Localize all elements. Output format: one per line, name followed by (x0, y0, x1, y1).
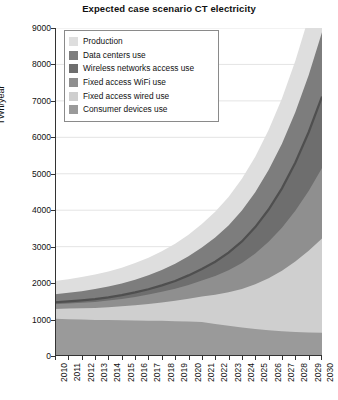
legend-item[interactable]: Fixed access wired use (69, 89, 213, 103)
legend-item[interactable]: Fixed access WiFi use (69, 76, 213, 90)
x-tick-mark (321, 356, 322, 360)
x-tick-label: 2013 (99, 363, 109, 382)
chart-title: Expected case scenario CT electricity (0, 3, 338, 14)
x-tick-label: 2019 (179, 363, 189, 382)
legend-item[interactable]: Wireless networks access use (69, 62, 213, 76)
x-tick-mark (309, 356, 310, 360)
legend-swatch-icon (69, 64, 78, 73)
x-tick-mark (82, 356, 83, 360)
legend: ProductionData centers useWireless netwo… (64, 30, 219, 122)
y-tick-label: 0 (17, 351, 51, 361)
y-axis-ticks: 0100020003000400050006000700080009000 (13, 28, 51, 356)
x-tick-label: 2025 (259, 363, 269, 382)
x-tick-mark (108, 356, 109, 360)
x-tick-label: 2026 (273, 363, 283, 382)
x-tick-mark (55, 356, 56, 360)
legend-swatch-icon (69, 78, 78, 87)
x-tick-label: 2030 (325, 363, 335, 382)
chart-container: Expected case scenario CT electricity TW… (0, 0, 338, 400)
x-tick-label: 2016 (139, 363, 149, 382)
y-tick-label: 5000 (17, 169, 51, 179)
x-tick-label: 2017 (152, 363, 162, 382)
y-tick-label: 3000 (17, 242, 51, 252)
x-tick-label: 2011 (72, 363, 82, 381)
x-tick-label: 2012 (86, 363, 96, 382)
x-tick-label: 2014 (112, 363, 122, 382)
legend-swatch-icon (69, 92, 78, 101)
x-tick-label: 2029 (313, 363, 323, 382)
legend-swatch-icon (69, 51, 78, 60)
x-tick-mark (175, 356, 176, 360)
x-tick-label: 2010 (59, 363, 69, 382)
x-tick-mark (295, 356, 296, 360)
y-tick-label: 2000 (17, 278, 51, 288)
legend-item[interactable]: Data centers use (69, 49, 213, 63)
x-tick-label: 2023 (233, 363, 243, 382)
legend-label: Fixed access WiFi use (83, 78, 166, 87)
x-tick-label: 2028 (299, 363, 309, 382)
x-tick-label: 2027 (286, 363, 296, 382)
y-tick-label: 1000 (17, 315, 51, 325)
x-tick-label: 2022 (219, 363, 229, 382)
legend-swatch-icon (69, 105, 78, 114)
legend-label: Wireless networks access use (83, 64, 194, 73)
legend-label: Production (83, 37, 123, 46)
x-tick-label: 2018 (166, 363, 176, 382)
x-tick-mark (68, 356, 69, 360)
x-tick-mark (189, 356, 190, 360)
x-tick-mark (95, 356, 96, 360)
x-tick-mark (162, 356, 163, 360)
x-axis-ticks: 2010201120122013201420152016201720182019… (55, 356, 322, 400)
x-tick-mark (135, 356, 136, 360)
x-tick-label: 2021 (206, 363, 216, 382)
x-tick-mark (148, 356, 149, 360)
x-tick-label: 2024 (246, 363, 256, 382)
y-axis-label: TWh/year (0, 45, 6, 165)
x-tick-mark (242, 356, 243, 360)
y-tick-label: 6000 (17, 132, 51, 142)
x-tick-mark (122, 356, 123, 360)
legend-item[interactable]: Production (69, 35, 213, 49)
x-tick-mark (202, 356, 203, 360)
legend-swatch-icon (69, 37, 78, 46)
legend-label: Data centers use (83, 51, 146, 60)
legend-label: Fixed access wired use (83, 92, 169, 101)
y-tick-label: 9000 (17, 23, 51, 33)
y-tick-label: 7000 (17, 96, 51, 106)
x-tick-mark (229, 356, 230, 360)
x-tick-label: 2015 (126, 363, 136, 382)
x-tick-mark (269, 356, 270, 360)
x-tick-label: 2020 (193, 363, 203, 382)
x-tick-mark (255, 356, 256, 360)
x-tick-mark (282, 356, 283, 360)
y-tick-label: 4000 (17, 205, 51, 215)
legend-item[interactable]: Consumer devices use (69, 103, 213, 117)
legend-label: Consumer devices use (83, 105, 167, 114)
x-tick-mark (215, 356, 216, 360)
y-tick-label: 8000 (17, 59, 51, 69)
